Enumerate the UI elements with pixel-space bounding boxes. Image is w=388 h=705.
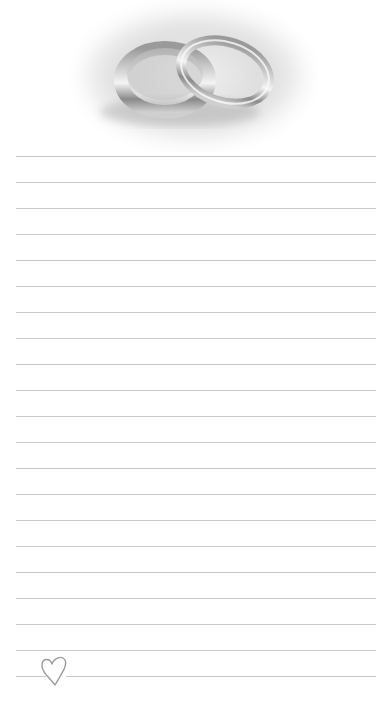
- ruled-line: [16, 286, 376, 287]
- ruled-line: [16, 624, 376, 625]
- ruled-line: [16, 442, 376, 443]
- ruled-line: [16, 156, 376, 157]
- ruled-line: [16, 650, 376, 651]
- ruled-line: [16, 494, 376, 495]
- ruled-line: [16, 312, 376, 313]
- ruled-line: [16, 416, 376, 417]
- ruled-line: [16, 572, 376, 573]
- ruled-line: [16, 520, 376, 521]
- ruled-line: [16, 390, 376, 391]
- ruled-line: [16, 598, 376, 599]
- heart-icon: [38, 654, 70, 688]
- ruled-line: [16, 546, 376, 547]
- ruled-line: [16, 364, 376, 365]
- rings-icon: [70, 0, 318, 152]
- ruled-line: [16, 338, 376, 339]
- wedding-rings-image: [70, 0, 318, 152]
- ruled-line: [16, 208, 376, 209]
- ruled-line: [16, 260, 376, 261]
- ruled-line: [16, 182, 376, 183]
- ruled-line: [16, 234, 376, 235]
- ruled-line: [16, 468, 376, 469]
- ruled-line: [66, 676, 376, 677]
